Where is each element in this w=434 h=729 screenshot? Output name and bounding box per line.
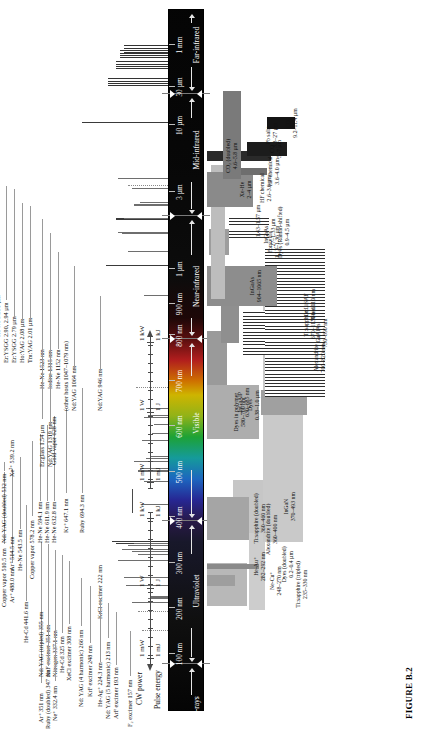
cw-power-tick-label: 1 mW [138,464,146,481]
power-axis-minor-tick [148,628,153,629]
power-axis-major-tick [147,482,154,483]
power-axis-minor-tick [148,363,153,364]
power-axis-minor-tick [148,575,153,576]
power-axis-minor-tick [148,425,153,426]
power-axis-minor-tick [148,592,153,593]
power-axis: 1 kW1 kJ1 W1 J1 mW1 mJ1 mW1 mJ1 W1 J1 kW… [0,0,434,729]
figure-caption: FIGURE B.2 [404,667,414,719]
power-axis-major-tick [147,658,154,659]
pulse-energy-tick-label: 1 J [154,579,162,587]
power-axis-major-tick [147,342,154,343]
power-axis-line [150,513,151,665]
power-axis-minor-tick [148,557,153,558]
power-axis-minor-tick [148,637,153,638]
cw-power-axis-title: CW power [136,672,144,705]
cw-power-tick-label: 1 kW [138,326,146,341]
power-axis-minor-tick [148,434,153,435]
pulse-energy-tick-label: 1 kJ [154,330,162,341]
pulse-energy-tick-label: 1 mJ [154,644,162,657]
power-axis-minor-tick [148,655,153,656]
power-axis-minor-tick [148,399,153,400]
power-axis-minor-tick [148,610,153,611]
power-axis-minor-tick [148,584,153,585]
power-axis-minor-tick [148,452,153,453]
power-axis-minor-tick [148,408,153,409]
power-axis-minor-tick [148,539,153,540]
power-axis-major-tick [147,588,154,589]
power-axis-minor-tick [148,548,153,549]
pulse-energy-tick-label: 1 J [154,403,162,411]
cw-power-tick-label: 1 kW [138,502,146,517]
power-axis-minor-tick [148,530,153,531]
cw-power-tick-label: 1 W [138,399,146,411]
power-axis-minor-tick [148,601,153,602]
power-axis-line [150,337,151,489]
pulse-energy-axis-title: Pulse energy [154,670,162,709]
power-axis-minor-tick [148,390,153,391]
power-axis-minor-tick [148,619,153,620]
power-axis-minor-tick [148,646,153,647]
laser-wavelength-figure: 100 nm200 nm300 nm400 nm500 nm600 nm700 … [0,0,434,729]
power-axis-joiner [132,489,133,513]
power-axis-minor-tick [148,381,153,382]
power-axis-minor-tick [148,479,153,480]
power-axis-minor-tick [148,443,153,444]
figure-canvas: 100 nm200 nm300 nm400 nm500 nm600 nm700 … [0,0,434,729]
power-axis-minor-tick [148,461,153,462]
power-axis-minor-tick [148,521,153,522]
power-axis-arrow [147,330,153,337]
power-axis-minor-tick [148,416,153,417]
cw-power-tick-label: 1 W [138,575,146,587]
power-axis-minor-tick [148,354,153,355]
power-axis-minor-tick [148,345,153,346]
power-axis-minor-tick [148,470,153,471]
power-axis-minor-tick [148,566,153,567]
power-axis-major-tick [147,518,154,519]
pulse-energy-tick-label: 1 kJ [154,506,162,517]
power-axis-minor-tick [148,372,153,373]
power-axis-minor-tick [148,512,153,513]
cw-power-tick-label: 1 mW [138,640,146,657]
power-axis-minor-tick [148,488,153,489]
pulse-energy-tick-label: 1 mJ [154,468,162,481]
power-axis-major-tick [147,412,154,413]
